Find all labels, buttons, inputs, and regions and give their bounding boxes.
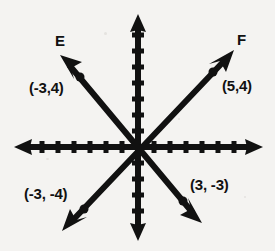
- point-dot-3-neg3: [179, 197, 188, 206]
- point-dot-neg3-neg4: [80, 205, 89, 214]
- label-coord-upper-left: (-3,4): [29, 80, 64, 95]
- x-axis-right-arrowhead: [245, 139, 263, 155]
- line-neg3-neg4-to-F-shaft: [73, 61, 224, 220]
- line-E-to-3-neg3: [60, 55, 202, 223]
- label-coord-lower-left: (-3, -4): [24, 186, 67, 201]
- y-axis-bottom-arrowhead: [130, 223, 146, 241]
- point-dot-F: [209, 68, 218, 77]
- x-axis-left-arrowhead: [14, 139, 32, 155]
- label-coord-upper-right: (5,4): [222, 78, 252, 93]
- point-dot-E: [76, 73, 85, 82]
- line-E-to-3-neg3-shaft: [70, 66, 192, 212]
- y-axis-ticks-positive: [132, 35, 144, 131]
- label-point-e: E: [55, 33, 65, 48]
- coordinate-plane-figure: (3,-3) ============ --> F(5,4) =========…: [0, 0, 275, 251]
- scan-speck: [178, 118, 180, 120]
- axes-group: [14, 14, 263, 241]
- label-point-f: F: [237, 32, 246, 47]
- scan-speck: [46, 158, 49, 160]
- line-neg3-neg4-to-F: [62, 50, 234, 231]
- y-axis-top-arrowhead: [130, 14, 146, 32]
- scan-speck: [244, 196, 246, 198]
- coordinate-plane-canvas: (3,-3) ============ --> F(5,4) =========…: [0, 0, 275, 251]
- label-coord-lower-right: (3, -3): [190, 177, 229, 192]
- scan-speck: [104, 32, 107, 35]
